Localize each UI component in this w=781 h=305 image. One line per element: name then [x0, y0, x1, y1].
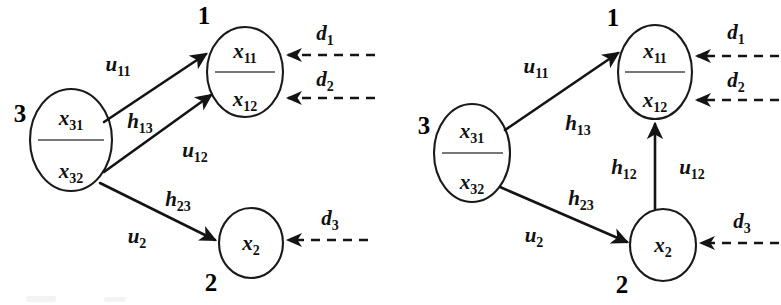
left-edge-3-to-2: h23 u2 — [100, 183, 215, 251]
node-3-number: 3 — [14, 100, 27, 127]
figure-root: x31 x32 3 x11 x12 1 — [0, 0, 781, 305]
left-diagram: x31 x32 3 x11 x12 1 — [14, 2, 375, 296]
left-node-1[interactable]: x11 x12 1 — [198, 2, 283, 117]
left-node-3[interactable]: x31 x32 3 — [14, 89, 112, 191]
scan-artifact-2 — [104, 297, 126, 302]
disturbance-d2-label: d2 — [727, 68, 745, 95]
right-disturbance-d2: d2 — [697, 68, 779, 100]
edge-3-to-1-line — [505, 53, 618, 130]
edge-label-h23: h23 — [568, 186, 594, 213]
right-edge-3-to-1: u11 h13 — [505, 53, 618, 138]
edge-3-to-2-line — [500, 187, 627, 242]
node-2-number: 2 — [205, 269, 218, 296]
edge-label-u2: u2 — [525, 223, 544, 250]
right-diagram: x31 x32 3 x11 x12 1 — [418, 4, 779, 298]
right-disturbance-d3: d3 — [701, 209, 779, 243]
edge-label-u12: u12 — [679, 155, 705, 182]
edge-label-h23: h23 — [165, 187, 191, 214]
right-node-1[interactable]: x11 x12 1 — [607, 4, 692, 119]
left-edge-3-to-1-upper: u11 — [104, 52, 206, 122]
left-disturbance-d3: d3 — [288, 206, 368, 240]
left-edge-3-to-1-lower: h13 u12 — [104, 95, 211, 172]
right-edge-3-to-2: h23 u2 — [500, 186, 627, 250]
right-node-2[interactable]: x2 2 — [616, 209, 696, 298]
edge-label-u11: u11 — [106, 52, 131, 79]
edge-label-u2: u2 — [128, 224, 147, 251]
scan-artifact-1 — [26, 296, 56, 302]
edge-label-h12: h12 — [611, 155, 637, 182]
left-disturbance-d1: d1 — [288, 21, 375, 55]
edge-3-to-2-line — [100, 183, 215, 240]
node-1-number: 1 — [607, 4, 620, 31]
disturbance-d1-label: d1 — [316, 21, 334, 48]
left-node-2[interactable]: x2 2 — [205, 208, 283, 296]
diagram-canvas: x31 x32 3 x11 x12 1 — [0, 0, 781, 305]
right-node-3[interactable]: x31 x32 3 — [418, 104, 510, 202]
edge-label-h13: h13 — [127, 109, 153, 136]
disturbance-d3-label: d3 — [733, 209, 751, 236]
edge-label-h13: h13 — [565, 111, 591, 138]
disturbance-d2-label: d2 — [316, 67, 334, 94]
edge-label-u12: u12 — [182, 138, 208, 165]
disturbance-d1-label: d1 — [727, 20, 745, 47]
node-3-number: 3 — [418, 112, 431, 139]
edge-label-u11: u11 — [524, 54, 549, 81]
disturbance-d3-label: d3 — [321, 206, 339, 233]
left-disturbance-d2: d2 — [288, 67, 375, 98]
node-2-number: 2 — [616, 271, 629, 298]
right-disturbance-d1: d1 — [697, 20, 779, 56]
right-edge-2-to-1: h12 u12 — [611, 124, 705, 209]
node-1-number: 1 — [198, 2, 211, 29]
